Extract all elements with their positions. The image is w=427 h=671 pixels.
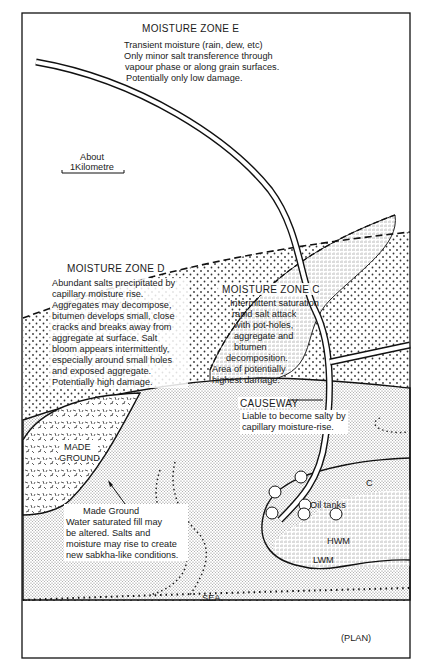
zone-c-line: bitumen bbox=[234, 342, 267, 352]
causeway-title: CAUSEWAY bbox=[240, 398, 299, 409]
zone-d-line: especially around small holes bbox=[52, 355, 172, 365]
scale-label-2: 1Kilometre bbox=[70, 162, 114, 172]
lwm-label: LWM bbox=[313, 555, 334, 565]
made-ground-note: Made Ground Water saturated fill may be … bbox=[64, 504, 188, 561]
made-ground-note-line: Water saturated fill may bbox=[66, 517, 163, 527]
zone-c-line: with pot-holes, bbox=[233, 320, 293, 330]
zone-e-line-2: Only minor salt transference through bbox=[124, 51, 273, 61]
sea-area bbox=[23, 601, 410, 658]
zone-d-line: cracks and breaks away from bbox=[52, 322, 172, 332]
zone-d-line: and exposed aggregate. bbox=[52, 366, 151, 376]
oil-tanks-label: Oil tanks bbox=[310, 500, 346, 510]
zone-d-line: aggregate at surface. Salt bbox=[52, 333, 158, 343]
zone-c-line: decomposition. bbox=[226, 353, 288, 363]
zone-d-line: bitumen develops small, close bbox=[52, 311, 175, 321]
made-ground-area-label: MADE bbox=[64, 442, 91, 452]
made-ground-note-line: be altered. Salts and bbox=[66, 528, 150, 538]
zone-c-line: rapid salt attack bbox=[232, 309, 297, 319]
made-ground-label: MADE GROUND bbox=[59, 440, 100, 463]
made-ground-note-title: Made Ground bbox=[83, 506, 139, 516]
zone-c-line: Intermittent saturation bbox=[230, 298, 319, 308]
zone-c-line: aggregate and bbox=[234, 331, 293, 341]
zone-c-title: MOISTURE ZONE C bbox=[222, 284, 320, 295]
zone-e-line-4: Potentially only low damage. bbox=[126, 73, 242, 83]
zone-e-title: MOISTURE ZONE E bbox=[142, 23, 239, 34]
causeway-line: Liable to become salty by bbox=[242, 411, 346, 421]
made-ground-note-line: moisture may rise to create bbox=[66, 539, 177, 549]
zone-c-line: highest damage. bbox=[212, 375, 280, 385]
zone-d-line: Potentially high damage. bbox=[52, 377, 153, 387]
zone-d-line: Aggregates may decompose, bbox=[52, 300, 172, 310]
causeway-line: capillary moisture-rise. bbox=[242, 422, 334, 432]
moisture-zone-plan-diagram: MOISTURE ZONE E Transient moisture (rain… bbox=[0, 0, 427, 671]
plan-view-label: (PLAN) bbox=[341, 633, 371, 643]
zone-c-marker: C bbox=[366, 478, 373, 488]
sea-label: SEA bbox=[202, 593, 221, 603]
scale-label-1: About bbox=[80, 152, 104, 162]
made-ground-area-label: GROUND bbox=[59, 453, 100, 463]
zone-d-label: MOISTURE ZONE D Abundant salts precipita… bbox=[50, 262, 188, 388]
zone-d-line: bloom appears intermittently, bbox=[52, 344, 169, 354]
zone-e-line-3: vapour phase or along grain surfaces. bbox=[125, 62, 279, 72]
zone-d-line: capillary moisture rise. bbox=[52, 289, 143, 299]
zone-e-line-1: Transient moisture (rain, dew, etc) bbox=[124, 40, 263, 50]
zone-d-title: MOISTURE ZONE D bbox=[67, 263, 165, 274]
made-ground-note-line: new sabkha-like conditions. bbox=[66, 550, 178, 560]
hwm-label: HWM bbox=[327, 536, 350, 546]
zone-d-line: Abundant salts precipitated by bbox=[52, 278, 175, 288]
zone-c-line: Area of potentially bbox=[212, 364, 286, 374]
